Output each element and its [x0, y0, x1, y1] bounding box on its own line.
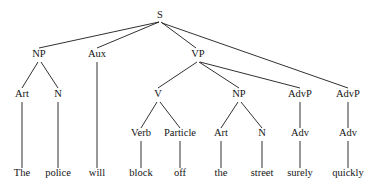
v-to-verb: [141, 102, 157, 128]
tree-node-v: V: [154, 88, 162, 99]
tree-leaf-layer: Thepolicewillblockoffthestreetsurelyquic…: [14, 167, 365, 178]
tree-node-n1: N: [54, 88, 62, 99]
tree-leaf-block: block: [129, 167, 153, 178]
tree-node-np2: NP: [232, 88, 246, 99]
v-to-particle: [160, 102, 180, 128]
tree-node-s: S: [157, 9, 163, 20]
s-to-np: [39, 22, 159, 48]
tree-leaf-the1: The: [14, 167, 31, 178]
tree-node-art2: Art: [214, 127, 228, 138]
tree-leaf-police: police: [45, 167, 71, 178]
np2-to-art2: [221, 102, 238, 128]
tree-node-advp2: AdvP: [336, 88, 360, 99]
np2-to-n2: [241, 102, 262, 128]
syntax-tree-figure: SNPAuxVPArtNVNPAdvPAdvPVerbParticleArtNA…: [0, 0, 378, 187]
tree-node-verb: Verb: [131, 127, 151, 138]
tree-node-adv2: Adv: [339, 127, 358, 138]
tree-leaf-street: street: [251, 167, 274, 178]
syntax-tree-canvas: SNPAuxVPArtNVNPAdvPAdvPVerbParticleArtNA…: [0, 0, 378, 187]
tree-leaf-off: off: [174, 167, 187, 178]
tree-node-vp: VP: [191, 48, 205, 59]
tree-leaf-will: will: [89, 167, 105, 178]
tree-node-aux: Aux: [88, 48, 107, 59]
tree-node-layer: SNPAuxVPArtNVNPAdvPAdvPVerbParticleArtNA…: [15, 9, 360, 138]
tree-node-art1: Art: [15, 88, 29, 99]
tree-node-adv1: Adv: [291, 127, 310, 138]
vp-to-np2: [199, 62, 239, 88]
tree-node-np1: NP: [32, 48, 46, 59]
vp-to-v: [158, 62, 197, 88]
tree-node-advp1: AdvP: [288, 88, 312, 99]
tree-node-particle: Particle: [164, 127, 196, 138]
s-to-advp2: [162, 23, 348, 88]
np1-to-n1: [41, 62, 58, 88]
tree-leaf-quickly: quickly: [332, 167, 364, 178]
tree-leaf-the2: the: [215, 167, 228, 178]
np1-to-art1: [22, 62, 38, 88]
tree-leaf-surely: surely: [287, 167, 313, 178]
s-to-vp: [161, 22, 196, 48]
tree-node-n2: N: [258, 127, 266, 138]
s-to-aux: [97, 22, 159, 48]
